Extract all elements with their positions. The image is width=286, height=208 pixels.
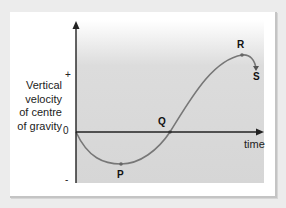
point-p-marker	[119, 162, 123, 166]
x-axis-label: time	[244, 138, 265, 150]
y-axis-label-line: Vertical	[4, 79, 62, 93]
y-axis-label-line: of centre	[4, 106, 62, 120]
y-axis-label: Vertical velocity of centre of gravity	[4, 79, 62, 133]
tick-minus: -	[65, 174, 68, 185]
y-axis-label-line: of gravity	[4, 120, 62, 134]
tick-zero: 0	[63, 125, 69, 136]
y-axis-label-line: velocity	[4, 93, 62, 107]
point-r-label: R	[237, 39, 244, 50]
tick-plus: +	[65, 69, 71, 80]
plot-area	[76, 20, 264, 183]
point-q-label: Q	[158, 116, 166, 127]
point-p-label: P	[117, 169, 124, 180]
point-s-label: S	[253, 71, 260, 82]
point-r-marker	[240, 53, 244, 57]
